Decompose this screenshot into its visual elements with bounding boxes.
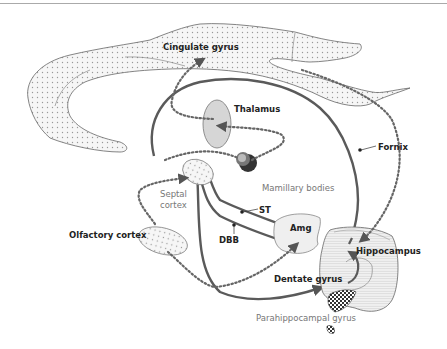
cingulate-gyrus-label: Cingulate gyrus xyxy=(163,42,239,52)
diagram-canvas xyxy=(0,0,447,349)
septal-cortex-label-line2: cortex xyxy=(160,200,187,210)
dbb-label: DBB xyxy=(219,235,239,245)
thalamus-shape xyxy=(203,100,231,148)
amg-label: Amg xyxy=(290,223,312,233)
st-pathway xyxy=(205,168,290,228)
fornix-label: Fornix xyxy=(378,142,408,152)
limbic-diagram: Cingulate gyrus Thalamus Fornix Mamillar… xyxy=(0,0,447,349)
dentate-gyrus-label: Dentate gyrus xyxy=(274,274,342,284)
parahippocampal-gyrus-label: Parahippocampal gyrus xyxy=(256,313,356,323)
olfactory-cortex-shape xyxy=(135,222,190,260)
st-label: ST xyxy=(259,205,271,215)
mamillary-bodies-label: Mamillary bodies xyxy=(262,183,334,193)
olfactory-cortex-label: Olfactory cortex xyxy=(69,230,147,240)
septal-mamillary-dotted xyxy=(165,151,238,160)
septal-cortex-label-line1: Septal xyxy=(160,189,187,199)
thalamus-label: Thalamus xyxy=(234,104,280,114)
amygdala-shape xyxy=(274,214,321,253)
hippocampus-label: Hippocampus xyxy=(356,246,421,256)
